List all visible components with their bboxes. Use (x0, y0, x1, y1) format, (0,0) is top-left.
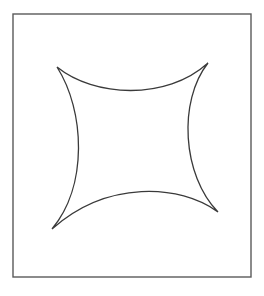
figure-background (0, 0, 264, 296)
figure-root (0, 0, 264, 296)
figure-canvas (0, 0, 264, 296)
